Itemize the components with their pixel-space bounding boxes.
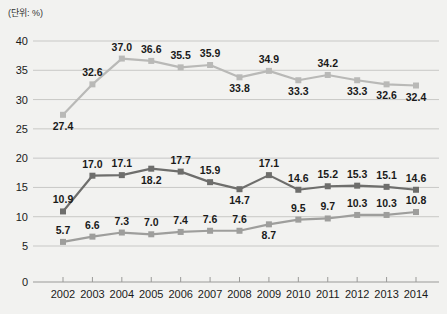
- x-axis-tick-2005: 2005: [139, 288, 163, 300]
- data-point-series-middle-2009: [266, 172, 272, 178]
- chart-container: (단위: %) 05101520253035402002200320042005…: [0, 0, 447, 314]
- data-label-series-middle-2003: 17.0: [82, 158, 103, 170]
- data-point-series-top-2013: [384, 81, 390, 87]
- data-point-series-bottom-2008: [237, 228, 243, 234]
- data-point-series-bottom-2009: [266, 221, 272, 227]
- data-label-series-middle-2013: 15.1: [376, 169, 397, 181]
- data-label-series-middle-2008: 14.7: [229, 194, 250, 206]
- data-label-series-middle-2009: 17.1: [259, 157, 280, 169]
- data-point-series-bottom-2011: [325, 215, 331, 221]
- data-label-series-top-2007: 35.9: [200, 47, 221, 59]
- data-point-series-top-2010: [295, 77, 301, 83]
- data-label-series-top-2005: 36.6: [141, 43, 162, 55]
- data-point-series-middle-2010: [295, 187, 301, 193]
- data-point-series-bottom-2003: [89, 234, 95, 240]
- data-point-series-middle-2011: [325, 183, 331, 189]
- x-axis-tick-2004: 2004: [110, 288, 134, 300]
- data-point-series-top-2006: [178, 64, 184, 70]
- data-label-series-bottom-2005: 7.0: [144, 216, 159, 228]
- data-label-series-bottom-2003: 6.6: [85, 219, 100, 231]
- data-label-series-middle-2004: 17.1: [112, 157, 133, 169]
- x-axis-tick-2014: 2014: [404, 288, 428, 300]
- data-point-series-top-2011: [325, 72, 331, 78]
- data-label-series-bottom-2004: 7.3: [115, 215, 130, 227]
- data-label-series-middle-2005: 18.2: [141, 174, 162, 186]
- data-label-series-top-2013: 32.6: [376, 89, 397, 101]
- data-point-series-middle-2003: [89, 173, 95, 179]
- data-point-series-middle-2005: [148, 166, 154, 172]
- y-axis-tick-0: 0: [22, 276, 28, 288]
- data-label-series-middle-2002: 10.9: [53, 193, 74, 205]
- x-axis-tick-2006: 2006: [168, 288, 192, 300]
- data-point-series-top-2005: [148, 58, 154, 64]
- data-point-series-bottom-2013: [384, 212, 390, 218]
- data-label-series-bottom-2009: 8.7: [262, 229, 277, 241]
- data-point-series-top-2003: [89, 81, 95, 87]
- data-label-series-top-2006: 35.5: [170, 49, 191, 61]
- x-axis-tick-2009: 2009: [257, 288, 281, 300]
- data-point-series-middle-2002: [60, 208, 66, 214]
- x-axis-tick-2013: 2013: [374, 288, 398, 300]
- data-point-series-bottom-2006: [178, 229, 184, 235]
- data-point-series-bottom-2004: [119, 230, 125, 236]
- x-axis-tick-2010: 2010: [286, 288, 310, 300]
- x-axis-tick-2011: 2011: [316, 288, 340, 300]
- data-point-series-middle-2012: [354, 183, 360, 189]
- data-label-series-top-2009: 34.9: [259, 53, 280, 65]
- y-axis-tick-10: 10: [16, 211, 28, 223]
- x-axis-tick-2007: 2007: [198, 288, 222, 300]
- y-axis-tick-15: 15: [16, 181, 28, 193]
- data-label-series-bottom-2011: 9.7: [320, 200, 335, 212]
- y-axis-tick-35: 35: [16, 64, 28, 76]
- x-axis-tick-2002: 2002: [51, 288, 75, 300]
- data-point-series-bottom-2012: [354, 212, 360, 218]
- data-label-series-middle-2010: 14.6: [288, 172, 309, 184]
- data-label-series-bottom-2002: 5.7: [56, 224, 71, 236]
- data-label-series-top-2008: 33.8: [229, 82, 250, 94]
- y-axis-tick-30: 30: [16, 94, 28, 106]
- data-label-series-middle-2006: 17.7: [170, 154, 191, 166]
- line-chart-plot: 0510152025303540200220032004200520062007…: [0, 0, 447, 314]
- data-point-series-top-2008: [237, 74, 243, 80]
- data-point-series-bottom-2014: [413, 209, 419, 215]
- data-point-series-bottom-2002: [60, 239, 66, 245]
- data-point-series-top-2002: [60, 112, 66, 118]
- data-label-series-bottom-2014: 10.8: [406, 194, 427, 206]
- data-point-series-middle-2006: [178, 169, 184, 175]
- data-label-series-bottom-2008: 7.6: [232, 213, 247, 225]
- data-label-series-middle-2014: 14.6: [406, 172, 427, 184]
- data-point-series-bottom-2007: [207, 228, 213, 234]
- y-axis-tick-25: 25: [16, 123, 28, 135]
- y-axis-tick-40: 40: [16, 35, 28, 47]
- data-label-series-middle-2011: 15.2: [318, 168, 339, 180]
- data-point-series-bottom-2005: [148, 231, 154, 237]
- data-label-series-top-2004: 37.0: [112, 41, 133, 53]
- data-label-series-middle-2007: 15.9: [200, 164, 221, 176]
- data-label-series-top-2014: 32.4: [406, 91, 427, 103]
- data-point-series-middle-2008: [237, 186, 243, 192]
- y-axis-tick-20: 20: [16, 152, 28, 164]
- data-point-series-top-2012: [354, 77, 360, 83]
- data-point-series-bottom-2010: [295, 217, 301, 223]
- data-label-series-top-2003: 32.6: [82, 66, 103, 78]
- data-point-series-middle-2013: [384, 184, 390, 190]
- data-label-series-bottom-2010: 9.5: [291, 202, 306, 214]
- data-label-series-top-2010: 33.3: [288, 85, 309, 97]
- data-label-series-bottom-2013: 10.3: [376, 197, 397, 209]
- data-label-series-bottom-2007: 7.6: [203, 213, 218, 225]
- data-point-series-top-2009: [266, 68, 272, 74]
- x-axis-tick-2003: 2003: [80, 288, 104, 300]
- data-label-series-bottom-2006: 7.4: [173, 214, 188, 226]
- data-point-series-middle-2007: [207, 179, 213, 185]
- x-axis-tick-2008: 2008: [227, 288, 251, 300]
- data-point-series-middle-2004: [119, 172, 125, 178]
- data-point-series-top-2007: [207, 62, 213, 68]
- data-label-series-bottom-2012: 10.3: [347, 197, 368, 209]
- data-point-series-top-2014: [413, 83, 419, 89]
- data-label-series-top-2012: 33.3: [347, 85, 368, 97]
- data-point-series-top-2004: [119, 56, 125, 62]
- data-label-series-middle-2012: 15.3: [347, 168, 368, 180]
- data-label-series-top-2002: 27.4: [53, 120, 74, 132]
- data-label-series-top-2011: 34.2: [318, 57, 339, 69]
- data-point-series-middle-2014: [413, 187, 419, 193]
